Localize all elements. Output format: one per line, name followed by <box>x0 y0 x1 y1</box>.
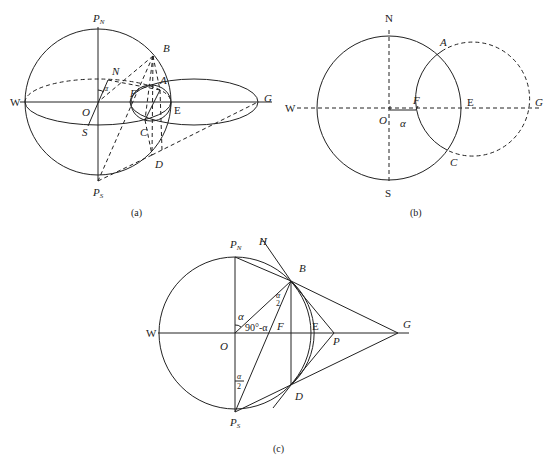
figure-canvas: PN PS W E O N S B A C D F G α (a) N S W … <box>0 0 551 466</box>
panel-b: N S W E O A C F G α (b) <box>285 12 543 219</box>
label-alpha: α <box>238 310 244 322</box>
label-complement: 90°-α <box>245 322 268 333</box>
label-pn: PN <box>92 12 105 26</box>
label-g: G <box>535 96 543 108</box>
line-g-ps <box>235 333 398 412</box>
label-ps: PS <box>92 186 104 200</box>
label-half-bottom-num: α <box>237 372 242 381</box>
label-c: C <box>450 156 458 168</box>
label-e: E <box>312 320 319 332</box>
label-w: W <box>285 102 296 114</box>
label-d: D <box>154 158 163 170</box>
label-o: O <box>82 106 90 118</box>
label-g: G <box>403 318 411 330</box>
tangent-d <box>273 385 291 408</box>
label-h: H <box>258 235 268 247</box>
label-c: C <box>140 126 148 138</box>
label-w: W <box>146 327 157 339</box>
label-half-top-den: 2 <box>276 299 280 308</box>
label-s: S <box>82 126 88 138</box>
line-ad <box>160 90 162 150</box>
label-f: F <box>129 87 137 99</box>
label-a: A <box>439 36 447 48</box>
label-n: N <box>111 65 120 77</box>
label-s: S <box>385 187 391 199</box>
label-alpha: α <box>400 117 406 129</box>
caption-c: (c) <box>273 443 284 455</box>
angle-alpha-arc <box>235 325 241 327</box>
line-ob <box>98 56 153 102</box>
label-angle: α <box>104 84 109 93</box>
label-n: N <box>385 12 393 24</box>
label-o: O <box>220 340 228 352</box>
label-e: E <box>467 96 474 108</box>
caption-a: (a) <box>131 207 142 219</box>
panel-c: PN PS W E O F G B D H P α 90°-α α 2 α 2 … <box>146 235 411 455</box>
label-pn: PN <box>229 238 242 252</box>
label-half-bottom-den: 2 <box>237 382 241 391</box>
label-o: O <box>379 114 387 126</box>
label-p: P <box>332 335 340 347</box>
label-d: D <box>294 390 303 402</box>
label-e: E <box>174 104 181 116</box>
caption-b: (b) <box>410 207 422 219</box>
label-b: B <box>163 42 170 54</box>
line-pd <box>291 333 334 385</box>
cone-circle-inner <box>416 51 447 150</box>
label-w: W <box>10 96 21 108</box>
line-dg <box>152 102 258 155</box>
label-g: G <box>264 92 272 104</box>
cone-circle-outer <box>442 42 530 156</box>
line-bg <box>291 281 398 333</box>
label-a: A <box>159 74 167 86</box>
panel-a: PN PS W E O N S B A C D F G α (a) <box>10 12 272 219</box>
label-f: F <box>276 320 284 332</box>
small-circle <box>131 85 171 121</box>
label-f: F <box>412 94 420 106</box>
label-ps: PS <box>229 416 241 430</box>
label-b: B <box>299 262 306 274</box>
line-ps-d <box>98 155 152 181</box>
